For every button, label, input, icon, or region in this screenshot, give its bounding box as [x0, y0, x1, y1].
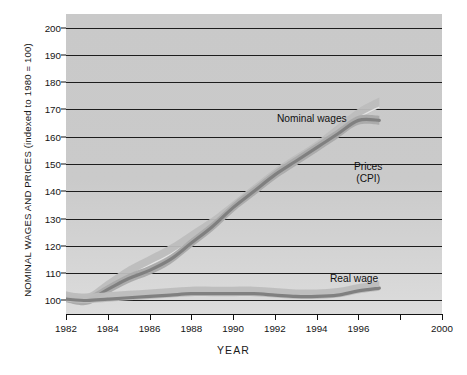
x-tick-mark-1994	[317, 314, 318, 320]
y-tick-label-160: 160	[45, 131, 61, 142]
x-tick-mark-1982	[66, 314, 67, 320]
annotation-prices-cpi: Prices (CPI)	[354, 161, 382, 184]
annotation-nominal-wages: Nominal wages	[277, 113, 347, 125]
x-tick-mark-1984	[108, 314, 109, 320]
y-tick-label-190: 190	[45, 49, 61, 60]
annotation-prices-line2: (CPI)	[354, 173, 382, 185]
y-tick-label-100: 100	[45, 295, 61, 306]
y-tick-label-120: 120	[45, 240, 61, 251]
x-tick-label-1994: 1994	[306, 323, 328, 334]
x-tick-mark-1998	[400, 314, 401, 320]
x-tick-label-1988: 1988	[180, 323, 202, 334]
x-tick-label-1992: 1992	[264, 323, 286, 334]
series-plot	[66, 14, 442, 314]
x-tick-mark-1986	[150, 314, 151, 320]
x-tick-mark-1988	[191, 314, 192, 320]
y-tick-label-150: 150	[45, 159, 61, 170]
y-axis-title: NOMINAL WAGES AND PRICES (indexed to 198…	[22, 20, 33, 320]
x-tick-label-1996: 1996	[348, 323, 370, 334]
x-tick-mark-1990	[233, 314, 234, 320]
x-tick-mark-2000	[442, 314, 443, 320]
x-tick-mark-1992	[275, 314, 276, 320]
y-tick-label-140: 140	[45, 186, 61, 197]
y-tick-label-130: 130	[45, 213, 61, 224]
x-axis-title: YEAR	[0, 344, 467, 356]
plot-area: 100110120130140150160170180190200 198219…	[66, 14, 442, 314]
chart-figure: NOMINAL WAGES AND PRICES (indexed to 198…	[0, 0, 467, 375]
x-tick-label-1990: 1990	[222, 323, 244, 334]
x-tick-mark-1996	[358, 314, 359, 320]
y-tick-label-180: 180	[45, 77, 61, 88]
x-tick-label-1984: 1984	[97, 323, 119, 334]
x-tick-label-1982: 1982	[55, 323, 77, 334]
annotation-real-wage: Real wage	[330, 273, 378, 285]
x-tick-label-1986: 1986	[139, 323, 161, 334]
annotation-prices-line1: Prices	[354, 161, 382, 173]
y-tick-label-200: 200	[45, 22, 61, 33]
y-tick-label-170: 170	[45, 104, 61, 115]
x-axis-line	[66, 314, 442, 315]
y-tick-label-110: 110	[45, 268, 61, 279]
x-tick-label-2000: 2000	[431, 323, 453, 334]
